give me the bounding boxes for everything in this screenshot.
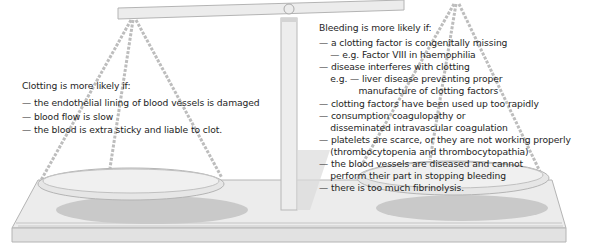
bleeding-item: — clotting factors have been used up too…: [319, 98, 571, 110]
bleeding-subitem: — e.g. Factor VIII in haemophilia: [319, 49, 571, 61]
bleeding-subitem: e.g. — liver disease preventing proper: [319, 73, 571, 85]
bleeding-subitem: manufacture of clotting factors: [319, 85, 571, 97]
bleeding-item: — disease interferes with clotting: [319, 61, 571, 73]
bleeding-item: — consumption coagulopathy or: [319, 110, 571, 122]
pivot-icon: [284, 4, 294, 14]
clotting-heading: Clotting is more likely if:: [22, 80, 260, 92]
bleeding-heading: Bleeding is more likely if:: [319, 22, 571, 34]
bleeding-item-continuation: (thrombocytopenia and thrombocytopathia): [319, 146, 571, 158]
bleeding-item: — there is too much fibrinolysis.: [319, 182, 571, 194]
clotting-item: — the endothelial lining of blood vessel…: [22, 96, 260, 110]
clotting-panel: Clotting is more likely if: — the endoth…: [22, 80, 260, 137]
right-pan-shadow: [376, 195, 548, 221]
clotting-item: — the blood is extra sticky and liable t…: [22, 123, 260, 137]
bleeding-item: — the blood vessels are diseased and can…: [319, 158, 571, 170]
scale-beam: [118, 0, 404, 19]
bleeding-item-continuation: disseminated intravascular coagulation: [319, 122, 571, 134]
bleeding-item: — platelets are scarce, or they are not …: [319, 134, 571, 146]
left-pan-shadow: [56, 196, 248, 224]
bleeding-item: — a clotting factor is congenitally miss…: [319, 37, 571, 49]
bleeding-item-continuation: perform their part in stopping bleeding: [319, 170, 571, 182]
bleeding-panel: Bleeding is more likely if: — a clotting…: [319, 22, 571, 194]
left-pan: [38, 168, 224, 200]
clotting-item: — blood flow is slow: [22, 110, 260, 124]
